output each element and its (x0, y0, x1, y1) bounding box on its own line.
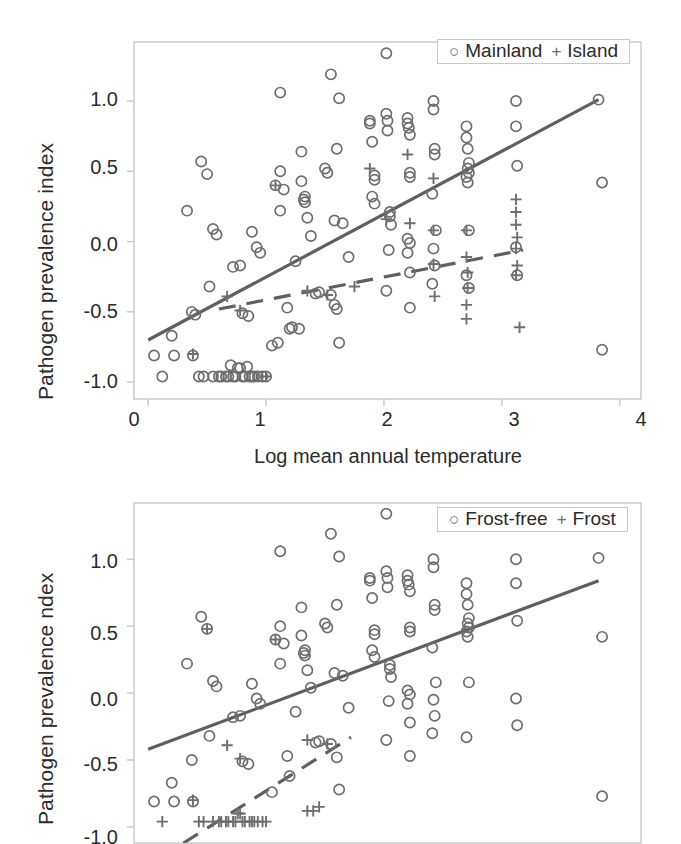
data-point-plus (429, 291, 440, 302)
data-point-circle (597, 345, 607, 355)
data-point-plus (404, 218, 415, 229)
data-point-circle (597, 632, 607, 642)
data-point-circle (157, 371, 167, 381)
scatter-plot-1 (0, 0, 681, 460)
data-point-circle (511, 578, 521, 588)
data-point-circle (430, 711, 440, 721)
data-point-plus (512, 260, 523, 271)
data-point-circle (461, 132, 471, 142)
data-point-circle (381, 48, 391, 58)
data-point-circle (235, 260, 245, 270)
data-point-circle (381, 509, 391, 519)
data-point-circle (367, 593, 377, 603)
data-point-circle (332, 144, 342, 154)
data-point-plus (222, 740, 233, 751)
data-point-circle (290, 707, 300, 717)
data-point-circle (461, 121, 471, 131)
data-point-circle (334, 784, 344, 794)
data-point-circle (381, 735, 391, 745)
plot-data-layer (148, 48, 607, 382)
data-point-plus (364, 163, 375, 174)
data-point-circle (247, 227, 257, 237)
data-point-circle (369, 652, 379, 662)
legend-label: Frost (573, 508, 616, 530)
plus-marker-icon: + (551, 43, 561, 60)
x-tick-label: 1 (236, 408, 284, 431)
x-tick-label: 4 (617, 408, 665, 431)
data-point-circle (511, 121, 521, 131)
data-point-plus (428, 225, 439, 236)
data-point-circle (149, 796, 159, 806)
data-point-circle (326, 69, 336, 79)
data-point-circle (367, 645, 377, 655)
data-point-circle (332, 752, 342, 762)
data-point-circle (597, 177, 607, 187)
data-point-circle (169, 350, 179, 360)
data-point-circle (405, 303, 415, 313)
data-point-plus (512, 232, 523, 243)
data-point-circle (402, 699, 412, 709)
data-point-circle (296, 176, 306, 186)
data-point-circle (511, 693, 521, 703)
data-point-circle (428, 244, 438, 254)
data-point-circle (464, 677, 474, 687)
data-point-circle (402, 248, 412, 258)
data-point-circle (369, 199, 379, 209)
legend-label: Island (567, 40, 618, 62)
data-point-circle (196, 612, 206, 622)
data-point-circle (196, 156, 206, 166)
legend-entry-mainland[interactable]: ○ Mainland (449, 40, 542, 62)
data-point-circle (384, 245, 394, 255)
legend-entry-island[interactable]: + Island (551, 40, 618, 62)
data-point-circle (382, 125, 392, 135)
data-point-plus (510, 206, 521, 217)
x-axis-label: Log mean annual temperature (138, 445, 638, 468)
data-point-circle (204, 731, 214, 741)
data-point-circle (332, 600, 342, 610)
data-point-circle (282, 751, 292, 761)
data-point-circle (461, 732, 471, 742)
scatter-plot-2 (0, 495, 681, 844)
data-point-circle (427, 279, 437, 289)
data-point-circle (334, 551, 344, 561)
data-point-circle (343, 703, 353, 713)
data-point-circle (296, 602, 306, 612)
data-point-circle (427, 728, 437, 738)
legend-frost[interactable]: ○ Frost-free + Frost (437, 507, 628, 532)
data-point-circle (334, 93, 344, 103)
data-point-circle (275, 166, 285, 176)
data-point-circle (334, 338, 344, 348)
data-point-circle (149, 350, 159, 360)
trend-line (148, 581, 598, 750)
circle-marker-icon: ○ (449, 511, 459, 528)
data-point-circle (343, 252, 353, 262)
legend-mainland-island[interactable]: ○ Mainland + Island (437, 39, 630, 64)
data-point-circle (430, 260, 440, 270)
data-point-plus (461, 313, 472, 324)
data-point-circle (428, 695, 438, 705)
data-point-circle (463, 600, 473, 610)
data-point-plus (428, 173, 439, 184)
data-point-circle (381, 286, 391, 296)
data-point-circle (382, 116, 392, 126)
chart-panel-frost: Pathogen prevalence ndex 1.0 0.5 0.0 -0.… (0, 495, 681, 844)
legend-entry-frost-free[interactable]: ○ Frost-free (449, 508, 548, 530)
data-point-circle (405, 586, 415, 596)
data-point-circle (275, 87, 285, 97)
data-point-circle (367, 137, 377, 147)
data-point-circle (384, 696, 394, 706)
data-point-circle (326, 529, 336, 539)
x-tick-label: 0 (110, 408, 158, 431)
data-point-plus (510, 194, 521, 205)
data-point-circle (167, 331, 177, 341)
data-point-circle (187, 755, 197, 765)
x-tick-label: 3 (490, 408, 538, 431)
data-point-circle (593, 553, 603, 563)
data-point-circle (182, 206, 192, 216)
data-point-circle (512, 161, 522, 171)
data-point-circle (275, 659, 285, 669)
data-point-circle (243, 759, 253, 769)
legend-entry-frost[interactable]: + Frost (557, 508, 616, 530)
data-point-circle (367, 192, 377, 202)
data-point-plus (461, 299, 472, 310)
